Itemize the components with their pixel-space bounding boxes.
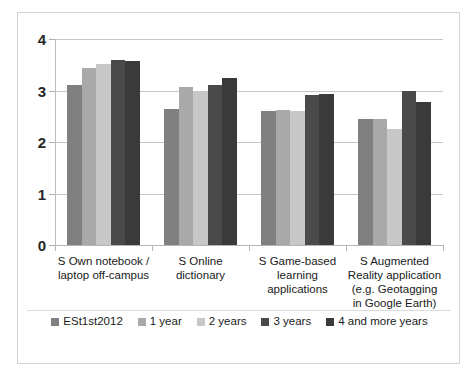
category-separator-tick (346, 245, 347, 251)
bar (67, 85, 82, 245)
bar (358, 119, 373, 245)
bar (222, 78, 237, 245)
category-label-line: Reality application (338, 268, 451, 282)
bar (402, 91, 417, 246)
legend-label: 4 and more years (338, 316, 428, 328)
bar (416, 102, 431, 245)
legend-item[interactable]: 2 years (197, 316, 247, 328)
category-separator-tick (249, 245, 250, 251)
category-separator-tick (443, 245, 444, 251)
bar (290, 111, 305, 245)
legend-swatch-icon (326, 318, 334, 326)
legend-item[interactable]: 1 year (138, 316, 182, 328)
bar (193, 91, 208, 246)
legend-swatch-icon (197, 318, 205, 326)
category-label-line: in Google Earth) (338, 296, 451, 310)
y-axis-tick-label: 3 (20, 83, 46, 98)
category-separator-tick (152, 245, 153, 251)
y-axis-tick-label: 0 (20, 238, 46, 253)
y-axis-tick-label: 4 (20, 32, 46, 47)
legend-swatch-icon (261, 318, 269, 326)
legend-label: ESt1st2012 (63, 316, 122, 328)
y-axis-tick-label: 1 (20, 186, 46, 201)
legend-label: 3 years (273, 316, 311, 328)
bar (125, 61, 140, 245)
legend-divider (27, 310, 451, 311)
gridline (55, 39, 443, 40)
category-label-line: (e.g. Geotagging (338, 282, 451, 296)
y-axis-tick-label: 2 (20, 135, 46, 150)
category-label-line: S Augmented (338, 254, 451, 268)
legend-item[interactable]: 3 years (261, 316, 311, 328)
legend-swatch-icon (51, 318, 59, 326)
legend-item[interactable]: ESt1st2012 (51, 316, 122, 328)
chart-frame: 01234 S Own notebook /laptop off-campusS… (17, 12, 460, 364)
legend-label: 1 year (150, 316, 182, 328)
category-label: S AugmentedReality application(e.g. Geot… (338, 254, 451, 310)
bar (208, 85, 223, 245)
bar (261, 111, 276, 245)
bar (387, 129, 402, 245)
bar (305, 95, 320, 245)
legend-label: 2 years (209, 316, 247, 328)
category-separator-tick (55, 245, 56, 251)
bar (276, 110, 291, 245)
bar (96, 64, 111, 245)
bar (164, 109, 179, 245)
chart-legend: ESt1st20121 year2 years3 years4 and more… (18, 316, 461, 328)
bar (82, 68, 97, 245)
y-axis-line (55, 39, 56, 245)
bar (179, 87, 194, 245)
bar (373, 119, 388, 245)
legend-item[interactable]: 4 and more years (326, 316, 428, 328)
bar (111, 60, 126, 245)
bar (319, 94, 334, 245)
legend-swatch-icon (138, 318, 146, 326)
plot-area (55, 39, 443, 245)
